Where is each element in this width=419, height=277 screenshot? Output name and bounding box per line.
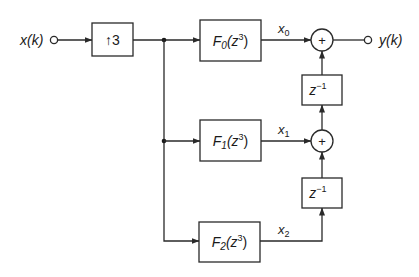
delay-block-lower: z−1 xyxy=(302,178,342,208)
svg-text:F1(z3): F1(z3) xyxy=(213,132,248,151)
output-terminal-icon xyxy=(364,36,371,43)
filter-block-f0: F0(z3) xyxy=(200,20,261,61)
signal-label-x1: x1 xyxy=(277,122,290,139)
adder-middle: + xyxy=(311,130,333,152)
signal-label-x2: x2 xyxy=(277,222,290,239)
input-label: x(k) xyxy=(19,32,43,48)
polyphase-block-diagram: x(k) ↑3 F0(z3) F1(z3) F2(z3) x0 x1 xyxy=(0,0,419,277)
upsampler-label: ↑3 xyxy=(105,32,120,48)
upsampler-block: ↑3 xyxy=(92,23,133,56)
input-terminal-icon xyxy=(50,36,57,43)
svg-text:F0(z3): F0(z3) xyxy=(213,32,248,51)
svg-text:+: + xyxy=(318,33,326,48)
svg-text:F2(z3): F2(z3) xyxy=(212,233,247,252)
svg-text:+: + xyxy=(318,134,326,149)
filter-block-f2: F2(z3) xyxy=(199,222,260,262)
signal-label-x0: x0 xyxy=(277,21,290,38)
filter-block-f1: F1(z3) xyxy=(200,120,261,161)
adder-top: + xyxy=(311,29,333,51)
output-label: y(k) xyxy=(378,32,402,48)
wire-x2 xyxy=(260,208,322,241)
delay-block-upper: z−1 xyxy=(302,75,342,105)
